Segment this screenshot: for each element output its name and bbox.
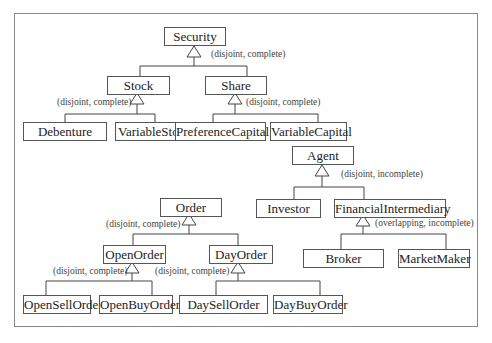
class-financial-intermediary: FinancialIntermediary <box>334 199 446 218</box>
class-open-sell-order: OpenSellOrder <box>23 295 91 314</box>
constraint-security: (disjoint, complete) <box>211 49 285 59</box>
class-day-order: DayOrder <box>209 245 273 264</box>
constraint-financial-intermediary: (overlapping, incomplete) <box>375 218 474 228</box>
class-broker: Broker <box>303 249 384 268</box>
constraint-stock: (disjoint, complete) <box>57 97 131 107</box>
class-day-buy-order: DayBuyOrder <box>273 295 343 314</box>
class-security: Security <box>164 27 226 46</box>
class-investor: Investor <box>256 199 321 218</box>
class-share: Share <box>205 76 267 95</box>
class-agent: Agent <box>292 146 354 165</box>
class-open-buy-order: OpenBuyOrder <box>99 295 173 314</box>
class-variable-capital: VariableCapital <box>270 122 347 141</box>
class-market-maker: MarketMaker <box>398 249 470 268</box>
constraint-agent: (disjoint, incomplete) <box>341 169 423 179</box>
constraint-day-order: (disjoint, complete) <box>155 266 229 276</box>
constraint-open-order: (disjoint, complete) <box>53 266 127 276</box>
class-day-sell-order: DaySellOrder <box>179 295 268 314</box>
class-debenture: Debenture <box>23 122 107 141</box>
class-order: Order <box>160 198 222 217</box>
constraint-order: (disjoint, complete) <box>106 219 180 229</box>
class-stock: Stock <box>107 76 170 95</box>
class-preference-capital: PreferenceCapital <box>175 122 266 141</box>
class-open-order: OpenOrder <box>103 245 166 264</box>
constraint-share: (disjoint, complete) <box>246 97 320 107</box>
